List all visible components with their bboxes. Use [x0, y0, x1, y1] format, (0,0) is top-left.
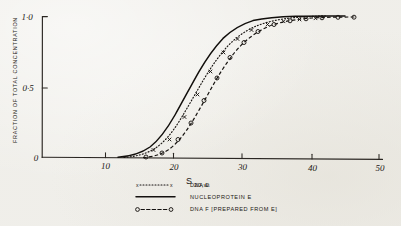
series-dna-f-line — [143, 17, 355, 158]
legend-marker-o-left — [136, 208, 140, 212]
y-tick-label-0-5: 0·5 — [22, 83, 34, 93]
legend-label-dna-d: DNA D — [190, 182, 210, 188]
x-tick-label-40: 40 — [308, 163, 318, 173]
legend-item-dna-f: DNA F [PREPARED FROM E] — [136, 206, 278, 212]
legend-marker-x-left: x — [136, 182, 139, 188]
legend-marker-x-right: x — [170, 182, 173, 188]
legend-label-dna-f: DNA F [PREPARED FROM E] — [190, 206, 277, 212]
series-dna-f — [143, 15, 356, 159]
sedimentation-distribution-chart: 1·0 0·5 0 10 20 30 40 50 S 20,w. FRACTIO… — [0, 0, 401, 226]
x-tick-label-50: 50 — [376, 163, 386, 173]
legend: x x DNA D NUCLEOPROTEIN E DNA F [PREPARE… — [136, 182, 278, 213]
series-dna-d-markers — [152, 17, 317, 152]
legend-label-nucleoprotein-e: NUCLEOPROTEIN E — [190, 194, 252, 200]
x-axis-line — [42, 157, 382, 159]
y-tick-label-0: 0 — [34, 153, 39, 163]
y-tick-labels: 1·0 0·5 0 — [21, 12, 38, 163]
series-nucleoprotein-e — [118, 16, 345, 157]
y-axis-caption: FRACTION OF TOTAL CONCENTRATION — [12, 17, 18, 143]
figure-container: 1·0 0·5 0 10 20 30 40 50 S 20,w. FRACTIO… — [0, 0, 401, 226]
y-tick-label-1-0: 1·0 — [21, 12, 33, 22]
series-dna-d — [124, 16, 327, 157]
x-tick-label-20: 20 — [170, 162, 180, 172]
series-nucleoprotein-e-line — [118, 16, 345, 157]
legend-marker-o-right — [169, 208, 173, 212]
axis-group — [42, 17, 382, 160]
legend-item-nucleoprotein-e: NUCLEOPROTEIN E — [136, 194, 252, 200]
x-tick-labels: 10 20 30 40 50 — [101, 161, 385, 173]
legend-item-dna-d: x x DNA D — [136, 182, 210, 188]
x-tick-label-10: 10 — [101, 161, 111, 171]
series-dna-d-line — [124, 16, 327, 157]
x-tick-label-30: 30 — [237, 162, 248, 172]
